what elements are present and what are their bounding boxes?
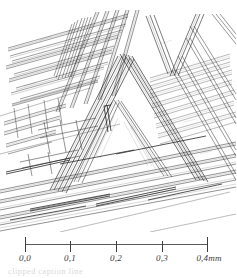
fiber-strokes (0, 10, 236, 232)
scale-tick-3 (162, 241, 163, 252)
fiber-illustration (0, 4, 237, 232)
scale-label-2: 0,2 (110, 253, 122, 263)
caption-text: clipped caption line (8, 268, 83, 276)
scale-bar: 0,0 0,1 0,2 0,3 0,4mm (0, 234, 237, 264)
scale-label-0: 0,0 (19, 253, 31, 263)
fiber-illustration-canvas (0, 4, 237, 232)
scale-tick-2 (116, 241, 117, 252)
caption-clipped: clipped caption line (0, 268, 237, 278)
scale-tick-1 (70, 241, 71, 252)
scale-tick-4 (207, 237, 208, 252)
scale-label-4: 0,4mm (196, 253, 221, 263)
scale-label-3: 0,3 (156, 253, 168, 263)
scale-tick-0 (25, 237, 26, 252)
scale-label-1: 0,1 (64, 253, 76, 263)
figure-plate: 0,0 0,1 0,2 0,3 0,4mm clipped caption li… (0, 0, 237, 278)
